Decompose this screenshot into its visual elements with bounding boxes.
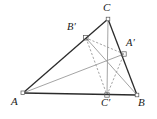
side-AB — [23, 93, 137, 95]
right-angle-markers-group — [84, 36, 127, 98]
triangle-sides-group — [23, 19, 137, 95]
vertex-label-C-prime: C′ — [101, 97, 110, 108]
vertex-label-A: A — [11, 96, 18, 107]
orthic-side-BpCp — [86, 38, 107, 95]
side-AC — [23, 19, 108, 93]
vertex-label-B-prime: B′ — [67, 21, 76, 32]
vertex-marker-C — [106, 17, 110, 21]
vertex-label-C: C — [103, 2, 110, 13]
vertex-marker-A — [21, 91, 25, 95]
orthic-side-CpAp — [107, 54, 124, 95]
altitude-from-C — [107, 19, 108, 95]
figure-canvas — [0, 0, 157, 119]
geometry-figure: A B C A′ B′ C′ — [0, 0, 157, 119]
vertex-markers-group — [21, 17, 139, 97]
altitudes-group — [23, 19, 137, 95]
side-BC — [108, 19, 137, 95]
vertex-label-A-prime: A′ — [126, 37, 135, 48]
altitude-from-A — [23, 54, 124, 93]
vertex-label-B: B — [138, 97, 145, 108]
